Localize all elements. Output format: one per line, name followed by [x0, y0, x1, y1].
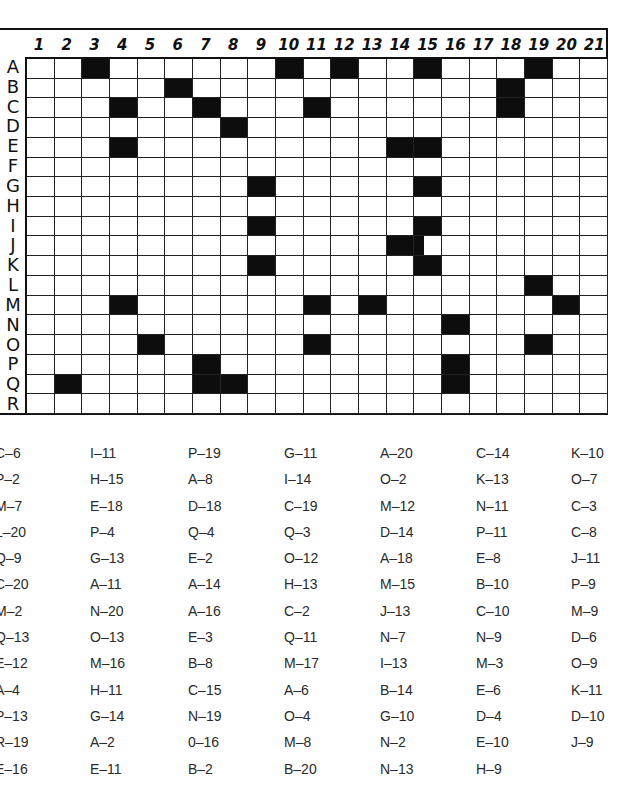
- grid-cell[interactable]: [414, 79, 442, 99]
- grid-cell[interactable]: [82, 335, 110, 355]
- grid-cell[interactable]: [387, 355, 415, 375]
- grid-cell[interactable]: [414, 276, 442, 296]
- grid-cell[interactable]: [414, 315, 442, 335]
- grid-cell[interactable]: [27, 79, 55, 99]
- grid-cell[interactable]: [55, 59, 83, 79]
- grid-cell[interactable]: [138, 256, 166, 276]
- grid-cell[interactable]: [221, 217, 249, 237]
- grid-cell[interactable]: [553, 276, 581, 296]
- grid-cell[interactable]: [138, 118, 166, 138]
- grid-cell[interactable]: [82, 177, 110, 197]
- grid-cell[interactable]: [497, 217, 525, 237]
- grid-cell[interactable]: [248, 355, 276, 375]
- grid-cell[interactable]: [470, 98, 498, 118]
- grid-cell[interactable]: [331, 177, 359, 197]
- grid-cell[interactable]: [553, 355, 581, 375]
- grid-cell[interactable]: [359, 394, 387, 414]
- grid-cell[interactable]: [82, 355, 110, 375]
- grid-cell[interactable]: [55, 296, 83, 316]
- grid-cell[interactable]: [27, 59, 55, 79]
- grid-cell[interactable]: [387, 79, 415, 99]
- grid-cell[interactable]: [387, 335, 415, 355]
- grid-cell[interactable]: [82, 158, 110, 178]
- grid-cell-filled[interactable]: [248, 217, 276, 237]
- grid-cell[interactable]: [27, 335, 55, 355]
- grid-cell[interactable]: [553, 98, 581, 118]
- grid-cell[interactable]: [525, 296, 553, 316]
- grid-cell[interactable]: [193, 79, 221, 99]
- grid-cell-filled[interactable]: [165, 79, 193, 99]
- grid-cell[interactable]: [470, 138, 498, 158]
- grid-cell[interactable]: [359, 217, 387, 237]
- grid-cell[interactable]: [470, 315, 498, 335]
- grid-cell[interactable]: [414, 375, 442, 395]
- grid-cell[interactable]: [138, 217, 166, 237]
- grid-cell[interactable]: [331, 217, 359, 237]
- grid-cell[interactable]: [248, 158, 276, 178]
- grid-cell-filled[interactable]: [331, 59, 359, 79]
- grid-cell[interactable]: [470, 256, 498, 276]
- grid-cell[interactable]: [414, 197, 442, 217]
- grid-cell-filled[interactable]: [193, 355, 221, 375]
- grid-cell[interactable]: [193, 59, 221, 79]
- grid-cell[interactable]: [442, 59, 470, 79]
- grid-cell[interactable]: [221, 236, 249, 256]
- grid-cell[interactable]: [276, 79, 304, 99]
- grid-cell[interactable]: [55, 276, 83, 296]
- grid-cell[interactable]: [55, 79, 83, 99]
- grid-cell[interactable]: [82, 375, 110, 395]
- grid-cell[interactable]: [553, 79, 581, 99]
- grid-cell[interactable]: [470, 59, 498, 79]
- grid-cell[interactable]: [580, 98, 608, 118]
- grid-cell[interactable]: [165, 177, 193, 197]
- grid-cell-filled[interactable]: [553, 296, 581, 316]
- grid-cell[interactable]: [165, 98, 193, 118]
- grid-cell-filled[interactable]: [248, 177, 276, 197]
- grid-cell[interactable]: [387, 256, 415, 276]
- grid-cell[interactable]: [276, 236, 304, 256]
- grid-cell-filled[interactable]: [221, 375, 249, 395]
- grid-cell[interactable]: [331, 375, 359, 395]
- grid-cell[interactable]: [331, 236, 359, 256]
- grid-cell[interactable]: [553, 236, 581, 256]
- grid-cell[interactable]: [525, 177, 553, 197]
- grid-cell[interactable]: [276, 256, 304, 276]
- grid-cell[interactable]: [193, 118, 221, 138]
- grid-cell[interactable]: [414, 118, 442, 138]
- grid-cell[interactable]: [248, 276, 276, 296]
- grid-cell[interactable]: [580, 394, 608, 414]
- grid-cell[interactable]: [276, 276, 304, 296]
- grid-cell[interactable]: [110, 256, 138, 276]
- grid-cell[interactable]: [580, 256, 608, 276]
- grid-cell[interactable]: [221, 59, 249, 79]
- grid-cell[interactable]: [580, 217, 608, 237]
- grid-cell[interactable]: [276, 177, 304, 197]
- grid-cell[interactable]: [221, 138, 249, 158]
- grid-cell[interactable]: [27, 197, 55, 217]
- grid-cell[interactable]: [331, 158, 359, 178]
- grid-cell[interactable]: [331, 394, 359, 414]
- grid-cell[interactable]: [221, 296, 249, 316]
- grid-cell[interactable]: [414, 335, 442, 355]
- grid-cell-filled[interactable]: [304, 296, 332, 316]
- grid-cell[interactable]: [359, 197, 387, 217]
- grid-cell[interactable]: [138, 197, 166, 217]
- grid-cell[interactable]: [27, 118, 55, 138]
- grid-cell[interactable]: [304, 59, 332, 79]
- grid-cell[interactable]: [82, 315, 110, 335]
- grid-cell[interactable]: [304, 394, 332, 414]
- grid-cell[interactable]: [110, 315, 138, 335]
- grid-cell[interactable]: [110, 158, 138, 178]
- grid-cell[interactable]: [580, 355, 608, 375]
- grid-cell[interactable]: [138, 79, 166, 99]
- grid-cell[interactable]: [359, 315, 387, 335]
- grid-cell[interactable]: [331, 335, 359, 355]
- grid-cell[interactable]: [276, 217, 304, 237]
- grid-cell[interactable]: [580, 138, 608, 158]
- grid-cell[interactable]: [276, 394, 304, 414]
- grid-cell[interactable]: [304, 79, 332, 99]
- grid-cell[interactable]: [82, 236, 110, 256]
- grid-cell[interactable]: [442, 394, 470, 414]
- grid-cell[interactable]: [497, 256, 525, 276]
- grid-cell-filled[interactable]: [442, 315, 470, 335]
